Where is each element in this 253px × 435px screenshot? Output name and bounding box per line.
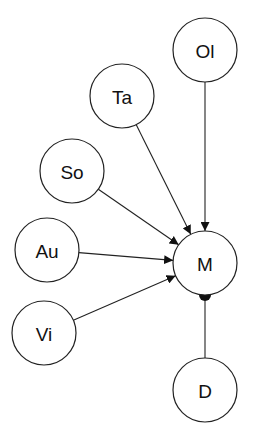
causal-diagram: OlTaSoAuViMD [0, 0, 253, 435]
edge-ta-m [136, 125, 191, 235]
edges [73, 82, 211, 358]
node-label: So [60, 162, 83, 183]
edge-au-m [79, 253, 173, 261]
node-ta: Ta [90, 64, 154, 128]
edge-vi-m [73, 276, 175, 320]
node-ol: Ol [173, 18, 237, 82]
node-vi: Vi [12, 301, 76, 365]
node-label: D [198, 381, 212, 402]
node-d: D [173, 358, 237, 422]
node-label: Ta [112, 87, 133, 108]
node-label: Au [35, 241, 58, 262]
node-m: M [173, 231, 237, 295]
node-so: So [40, 139, 104, 203]
node-label: Ol [196, 41, 215, 62]
nodes: OlTaSoAuViMD [12, 18, 237, 422]
node-label: Vi [36, 324, 53, 345]
edge-so-m [98, 189, 178, 245]
node-label: M [197, 254, 213, 275]
node-au: Au [15, 218, 79, 282]
